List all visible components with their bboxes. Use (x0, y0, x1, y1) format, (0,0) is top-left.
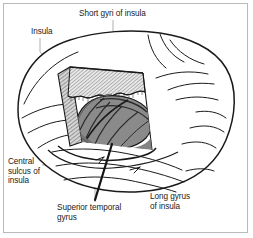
label-long-gyrus-of-insula: Long gyrus of insula (150, 192, 190, 211)
label-superior-temporal-gyrus: Superior temporal gyrus (57, 203, 121, 222)
label-insula: Insula (31, 27, 53, 37)
label-central-sulcus-of-insula: Central sulcus of insula (8, 157, 40, 186)
insula-anatomy-figure: Insula Short gyri of insula Central sulc… (0, 0, 253, 238)
label-short-gyri-of-insula: Short gyri of insula (79, 9, 146, 19)
